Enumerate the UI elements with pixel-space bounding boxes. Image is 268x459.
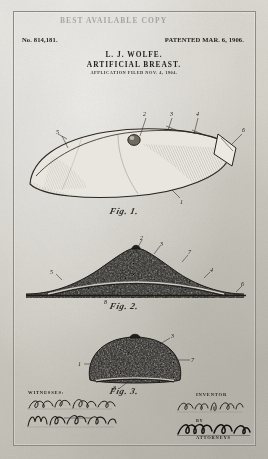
figure-1-caption: Fig. 1. [109, 206, 140, 216]
attorneys-label: ATTORNEYS [196, 435, 231, 440]
svg-text:1: 1 [180, 199, 183, 205]
figure-3-caption: Fig. 3. [109, 386, 140, 396]
svg-text:2: 2 [140, 236, 143, 241]
svg-text:4: 4 [196, 111, 199, 117]
svg-text:6: 6 [242, 127, 245, 133]
application-filed-line: APPLICATION FILED NOV. 4, 1904. [0, 70, 268, 75]
patent-title: ARTIFICIAL BREAST. [0, 60, 268, 69]
inventor-heading: L. J. WOLFE. [0, 50, 268, 59]
witness-signature-2 [26, 412, 118, 430]
svg-text:5: 5 [50, 269, 53, 275]
svg-text:2: 2 [143, 111, 146, 117]
svg-text:3: 3 [169, 111, 173, 117]
svg-text:8: 8 [104, 299, 107, 305]
svg-text:3: 3 [159, 241, 163, 247]
figure-2-drawing: 2 3 7 4 5 6 8 [22, 236, 250, 306]
svg-text:6: 6 [241, 281, 244, 287]
inventor-label: INVENTOR [196, 392, 227, 397]
svg-text:7: 7 [188, 249, 192, 255]
figure-2-caption: Fig. 2. [109, 301, 140, 311]
inventor-signature [176, 399, 246, 414]
patent-number: No. 814,181. [22, 36, 58, 43]
patent-date: PATENTED MAR. 6, 1906. [165, 36, 244, 43]
best-available-copy-stamp: BEST AVAILABLE COPY [60, 16, 167, 25]
witness-signature-1 [26, 396, 118, 412]
figure-1-drawing: 2 3 4 5 6 1 [22, 104, 250, 214]
patent-page: BEST AVAILABLE COPY No. 814,181. PATENTE… [0, 0, 268, 459]
svg-text:7: 7 [191, 357, 195, 363]
svg-text:3: 3 [170, 333, 174, 339]
svg-text:5: 5 [56, 129, 59, 135]
svg-text:4: 4 [210, 267, 213, 273]
witnesses-label: WITNESSES: [28, 390, 64, 395]
svg-text:1: 1 [78, 361, 81, 367]
figure-3-drawing: 3 7 1 8 [72, 330, 202, 392]
